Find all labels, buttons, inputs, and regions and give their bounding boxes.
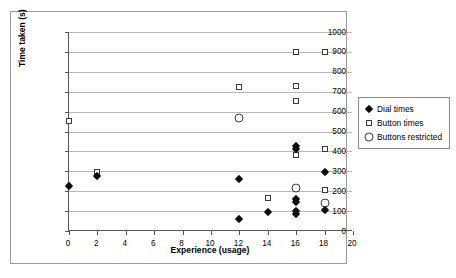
y-tick-mark xyxy=(65,92,69,93)
data-point xyxy=(235,214,243,222)
y-tick-mark xyxy=(65,211,69,212)
y-tick-label: 800 xyxy=(296,67,346,76)
chart-legend: Dial times Button times Buttons restrict… xyxy=(358,97,450,149)
x-tick-mark xyxy=(154,231,155,235)
data-point xyxy=(265,195,271,201)
data-point xyxy=(235,113,244,122)
legend-item-label: Dial times xyxy=(377,104,414,114)
y-tick-mark xyxy=(65,32,69,33)
x-axis-label: Experience (usage) xyxy=(68,245,352,255)
x-tick-mark xyxy=(97,231,98,235)
x-tick-mark xyxy=(69,231,70,235)
x-tick-mark xyxy=(239,231,240,235)
chart-figure: Time taken (s) 0100200300400500600700800… xyxy=(0,0,456,278)
open-circle-icon xyxy=(363,131,375,143)
y-tick-mark xyxy=(65,151,69,152)
y-tick-label: 500 xyxy=(296,127,346,136)
y-tick-label: 900 xyxy=(296,47,346,56)
y-axis-label: Time taken (s) xyxy=(17,0,27,67)
chart-frame: Time taken (s) 0100200300400500600700800… xyxy=(10,11,347,264)
y-tick-mark xyxy=(65,171,69,172)
y-tick-label: 600 xyxy=(296,107,346,116)
y-tick-label: 0 xyxy=(296,227,346,236)
data-point xyxy=(293,98,299,104)
y-tick-label: 700 xyxy=(296,87,346,96)
y-tick-mark xyxy=(65,191,69,192)
x-tick-mark xyxy=(353,231,354,235)
y-tick-mark xyxy=(65,52,69,53)
y-tick-mark xyxy=(65,112,69,113)
filled-diamond-icon xyxy=(363,103,375,115)
data-point xyxy=(264,208,272,216)
y-axis-label-container: Time taken (s) xyxy=(11,12,31,252)
legend-item-button-times: Button times xyxy=(363,116,445,130)
y-tick-mark xyxy=(65,72,69,73)
x-tick-mark xyxy=(126,231,127,235)
x-tick-mark xyxy=(211,231,212,235)
y-tick-label: 400 xyxy=(296,147,346,156)
y-tick-label: 300 xyxy=(296,167,346,176)
y-tick-label: 100 xyxy=(296,207,346,216)
data-point xyxy=(236,84,242,90)
legend-item-dial-times: Dial times xyxy=(363,102,445,116)
legend-item-label: Buttons restricted xyxy=(377,132,442,142)
y-tick-mark xyxy=(65,132,69,133)
x-tick-mark xyxy=(268,231,269,235)
y-tick-label: 200 xyxy=(296,187,346,196)
data-point xyxy=(235,175,243,183)
y-tick-label: 1000 xyxy=(296,28,346,37)
x-tick-mark xyxy=(183,231,184,235)
data-point xyxy=(66,118,72,124)
legend-item-buttons-restricted: Buttons restricted xyxy=(363,130,445,144)
data-point xyxy=(65,182,73,190)
legend-item-label: Button times xyxy=(377,118,424,128)
open-square-icon xyxy=(363,117,375,129)
